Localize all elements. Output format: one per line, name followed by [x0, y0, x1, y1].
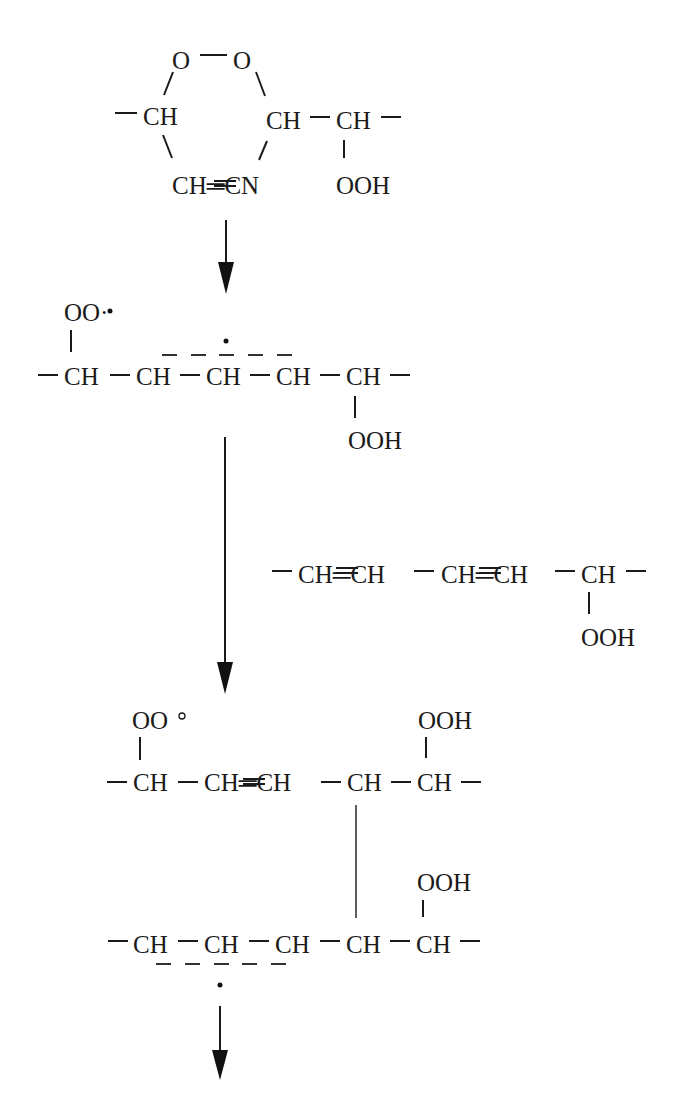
radical-dot [224, 339, 229, 344]
bond-ch-right-down [259, 141, 267, 160]
bond-ch-left-down [163, 135, 172, 158]
arrow-2-head [217, 662, 233, 694]
arrow-3-head [212, 1050, 228, 1080]
arrow-1-head [218, 262, 234, 294]
reaction-scheme: O O CH CH CH CH═CN OOH OO· CH CH CH CH C… [0, 0, 679, 1114]
radical-dot [218, 983, 223, 988]
bond-o-ch-left [164, 72, 173, 95]
bond-o-ch-right [256, 72, 265, 96]
radical-dot [108, 309, 113, 314]
radical-open-dot [179, 713, 185, 719]
bonds-and-arrows [0, 0, 679, 1114]
